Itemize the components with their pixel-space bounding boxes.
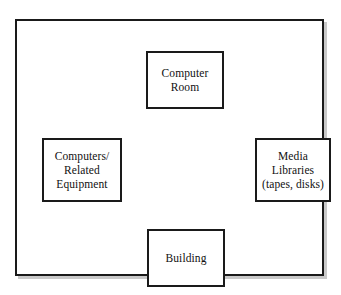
diagram-node-label: Computers/ Related Equipment <box>53 149 112 191</box>
diagram-node-building[interactable]: Building <box>147 229 225 287</box>
diagram-node-computers-related-equipment[interactable]: Computers/ Related Equipment <box>42 138 122 202</box>
diagram-node-label: Building <box>163 251 208 265</box>
diagram-node-media-libraries[interactable]: Media Libraries (tapes, disks) <box>255 138 331 202</box>
diagram-node-label: Computer Room <box>160 66 211 94</box>
diagram-canvas: Computer Room Computers/ Related Equipme… <box>0 0 341 295</box>
diagram-node-computer-room[interactable]: Computer Room <box>146 51 224 109</box>
outer-container-frame: Computer Room Computers/ Related Equipme… <box>15 19 324 276</box>
diagram-node-label: Media Libraries (tapes, disks) <box>260 149 326 191</box>
